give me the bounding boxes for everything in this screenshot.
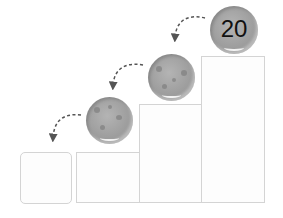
dashed-arrow-icon xyxy=(175,17,205,38)
dashed-arrow-icon xyxy=(113,64,143,86)
arrows-layer xyxy=(0,0,283,218)
dashed-arrow-icon xyxy=(53,115,81,138)
